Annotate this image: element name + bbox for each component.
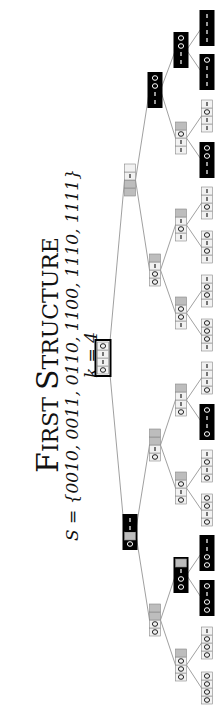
tree-edge [187, 378, 202, 400]
trie-node-000 [176, 649, 187, 681]
trie-node-0000 [202, 672, 213, 704]
tree-edge [187, 575, 202, 598]
tree-edge [136, 445, 150, 532]
node-cell [125, 164, 136, 172]
trie-node-0011 [200, 535, 215, 571]
tree-edge [161, 270, 176, 313]
node-cell [125, 180, 136, 188]
trie-node-0111 [202, 362, 213, 394]
node-cell [125, 532, 136, 540]
tree-edge [187, 116, 202, 138]
tree-nodes [96, 10, 215, 704]
trie-node-1 [125, 164, 136, 196]
trie-node-0100 [202, 494, 213, 526]
trie-node-0 [123, 514, 138, 550]
trie-node-0110 [200, 404, 215, 440]
trie-node-r [96, 340, 111, 376]
trie-node-011 [176, 384, 187, 416]
tree-edge [161, 225, 176, 270]
trie-node-1000 [202, 319, 213, 351]
trie-node-110 [176, 122, 187, 154]
trie-node-101 [176, 209, 187, 241]
node-cell [176, 649, 187, 657]
tree-edge [161, 620, 176, 665]
node-cell [176, 472, 187, 480]
trie-node-100 [176, 297, 187, 329]
title-block: FIRST STRUCTURE S = {0010, 0011, 0110, 1… [30, 169, 101, 541]
tree-edge [187, 665, 202, 688]
trie-node-1111 [200, 10, 215, 46]
tree-edge [136, 532, 150, 620]
tree-edge [187, 488, 202, 510]
node-cell [176, 559, 187, 567]
trie-node-00 [150, 604, 161, 636]
tree-edge [187, 466, 202, 488]
node-cell [150, 429, 161, 437]
trie-node-001 [174, 557, 189, 593]
node-cell [125, 188, 136, 196]
tree-edge [187, 291, 202, 313]
tree-edge [136, 90, 150, 180]
trie-node-10 [150, 254, 161, 286]
trie-diagram: FIRST STRUCTURE S = {0010, 0011, 0110, 1… [0, 0, 222, 710]
trie-node-111 [174, 32, 189, 68]
trie-node-010 [176, 472, 187, 504]
trie-node-0101 [202, 450, 213, 482]
tree-edge [187, 225, 202, 247]
trie-node-0010 [200, 580, 215, 616]
tree-edge [187, 643, 202, 665]
tree-edge [187, 313, 202, 335]
node-cell [176, 297, 187, 305]
diagram-stage: FIRST STRUCTURE S = {0010, 0011, 0110, 1… [0, 0, 222, 710]
tree-edge [161, 575, 176, 620]
tree-edge [161, 400, 176, 445]
trie-node-01 [150, 429, 161, 461]
diagram-title: FIRST STRUCTURE [30, 237, 65, 473]
tree-edge [187, 400, 202, 422]
trie-node-1010 [202, 231, 213, 263]
node-cell [176, 209, 187, 217]
trie-node-1011 [202, 187, 213, 219]
node-cell [150, 437, 161, 445]
trie-node-1110 [200, 54, 215, 90]
node-cell [150, 604, 161, 612]
tree-edge [187, 50, 202, 72]
tree-edge [109, 358, 125, 532]
trie-node-1001 [202, 275, 213, 307]
tree-edge [136, 180, 150, 270]
trie-node-1100 [200, 142, 215, 178]
tree-edge [161, 50, 176, 90]
node-cell [176, 384, 187, 392]
tree-edge [161, 90, 176, 138]
trie-node-11 [148, 72, 163, 108]
trie-node-1101 [202, 100, 213, 132]
node-cell [150, 254, 161, 262]
tree-edge [187, 28, 202, 50]
trie-node-0001 [202, 627, 213, 659]
set-definition: S = {0010, 0011, 0110, 1100, 1110, 1111} [62, 169, 82, 541]
node-cell [150, 612, 161, 620]
node-cell [176, 122, 187, 130]
tree-edge [161, 445, 176, 488]
tree-edge [109, 180, 125, 358]
tree-edge [187, 553, 202, 575]
tree-edge [187, 203, 202, 225]
tree-edge [187, 138, 202, 160]
